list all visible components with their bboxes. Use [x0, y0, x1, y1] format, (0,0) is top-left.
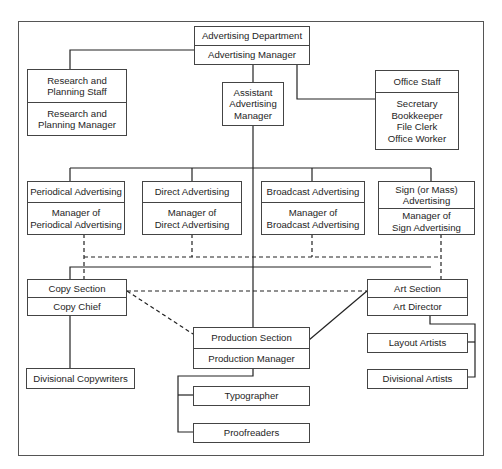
- role-label: Divisional Artists: [368, 370, 467, 388]
- box-divisional-copywriters: Divisional Copywriters: [26, 368, 135, 389]
- unit-label: Advertising Department: [195, 27, 309, 45]
- box-typographer: Typographer: [193, 386, 310, 406]
- unit-label: Sign (or Mass) Advertising: [379, 182, 474, 208]
- unit-label: Art Section: [368, 280, 467, 297]
- role-label: Production Manager: [194, 348, 309, 369]
- box-sign-advertising: Sign (or Mass) Advertising Manager of Si…: [378, 181, 475, 235]
- box-proofreaders: Proofreaders: [193, 423, 310, 443]
- role-label: Manager of Broadcast Advertising: [262, 202, 364, 234]
- box-assistant-manager: Assistant Advertising Manager: [222, 82, 284, 126]
- unit-label: Periodical Advertising: [28, 182, 124, 202]
- role-label: Manager of Periodical Advertising: [28, 202, 124, 234]
- box-advertising-department: Advertising Department Advertising Manag…: [194, 26, 310, 65]
- box-art-section: Art Section Art Director: [367, 279, 468, 316]
- role-label: Layout Artists: [368, 334, 467, 352]
- org-chart: Advertising Department Advertising Manag…: [0, 0, 502, 469]
- unit-label: Broadcast Advertising: [262, 182, 364, 202]
- unit-label: Production Section: [194, 328, 309, 348]
- role-label: Art Director: [368, 297, 467, 315]
- box-broadcast-advertising: Broadcast Advertising Manager of Broadca…: [261, 181, 365, 235]
- box-research-planning: Research and Planning Staff Research and…: [27, 69, 127, 136]
- role-label: Typographer: [194, 387, 309, 405]
- box-copy-section: Copy Section Copy Chief: [27, 279, 127, 316]
- unit-label: Office Staff: [376, 71, 458, 92]
- box-divisional-artists: Divisional Artists: [367, 369, 468, 389]
- role-label: Proofreaders: [194, 424, 309, 442]
- box-periodical-advertising: Periodical Advertising Manager of Period…: [27, 181, 125, 235]
- box-office-staff: Office Staff Secretary Bookkeeper File C…: [375, 70, 459, 150]
- unit-label: Research and Planning Staff: [28, 70, 126, 102]
- box-production-section: Production Section Production Manager: [193, 327, 310, 369]
- unit-label: Copy Section: [28, 280, 126, 297]
- box-layout-artists: Layout Artists: [367, 333, 468, 353]
- role-label: Manager of Direct Advertising: [143, 202, 241, 234]
- role-label: Copy Chief: [28, 297, 126, 315]
- role-label: Manager of Sign Advertising: [379, 208, 474, 234]
- role-label: Research and Planning Manager: [28, 102, 126, 135]
- role-label: Secretary Bookkeeper File Clerk Office W…: [376, 92, 458, 149]
- unit-label: Direct Advertising: [143, 182, 241, 202]
- role-label: Divisional Copywriters: [27, 369, 134, 388]
- box-direct-advertising: Direct Advertising Manager of Direct Adv…: [142, 181, 242, 235]
- role-label: Advertising Manager: [195, 45, 309, 64]
- role-label: Assistant Advertising Manager: [223, 83, 283, 125]
